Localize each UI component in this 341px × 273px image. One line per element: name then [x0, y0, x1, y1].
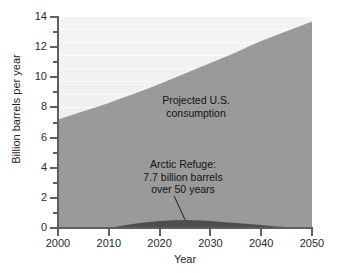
- y-tick-label: 2: [0, 192, 47, 203]
- y-tick-label: 10: [0, 71, 47, 82]
- y-tick-label: 12: [0, 41, 47, 52]
- y-tick-minor: [53, 91, 58, 93]
- x-tick-label: 2050: [292, 238, 332, 249]
- y-tick-minor: [53, 152, 58, 154]
- y-tick-minor: [53, 212, 58, 214]
- y-tick-label: 14: [0, 11, 47, 22]
- x-tick-major: [311, 229, 313, 236]
- y-tick-major: [50, 167, 58, 169]
- area-consumption: [58, 22, 312, 228]
- y-tick-major: [50, 76, 58, 78]
- y-tick-major: [50, 197, 58, 199]
- x-tick-label: 2030: [190, 238, 230, 249]
- y-tick-label: 4: [0, 162, 47, 173]
- y-tick-minor: [53, 122, 58, 124]
- y-axis-title: Billion barrels per year: [10, 29, 22, 189]
- x-tick-major: [260, 229, 262, 236]
- y-tick-label: 0: [0, 222, 47, 233]
- x-tick-major: [159, 229, 161, 236]
- y-tick-label: 6: [0, 132, 47, 143]
- y-tick-minor: [53, 31, 58, 33]
- y-tick-minor: [53, 61, 58, 63]
- plot-area: [58, 17, 312, 228]
- annotation-projected-consumption: Projected U.S. consumption: [134, 94, 258, 119]
- y-tick-label: 8: [0, 101, 47, 112]
- chart-figure: 02468101214 200020102020203020402050 Bil…: [0, 0, 341, 273]
- x-tick-label: 2010: [89, 238, 129, 249]
- y-tick-major: [50, 16, 58, 18]
- x-axis-line: [57, 227, 313, 229]
- x-axis-title: Year: [58, 253, 312, 265]
- y-tick-major: [50, 137, 58, 139]
- annotation-arctic-refuge: Arctic Refuge: 7.7 billion barrels over …: [118, 158, 248, 196]
- x-tick-label: 2020: [140, 238, 180, 249]
- y-tick-major: [50, 106, 58, 108]
- y-tick-minor: [53, 182, 58, 184]
- series-areas: [58, 17, 312, 228]
- x-tick-major: [57, 229, 59, 236]
- x-tick-label: 2000: [38, 238, 78, 249]
- x-tick-major: [108, 229, 110, 236]
- y-tick-major: [50, 46, 58, 48]
- x-tick-label: 2040: [241, 238, 281, 249]
- x-tick-major: [209, 229, 211, 236]
